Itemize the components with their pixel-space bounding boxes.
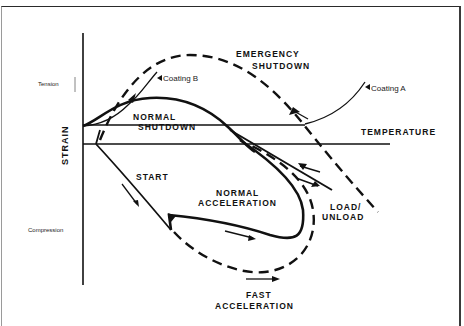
fast-acceleration-curve: [174, 145, 314, 272]
tension-label: Tension: [38, 81, 59, 87]
start-label: START: [136, 172, 169, 182]
load-unload-label-2: UNLOAD: [322, 212, 364, 222]
emergency-label-1: EMERGENCY: [236, 49, 300, 59]
fast-accel-label-2: ACCELERATION: [215, 301, 294, 311]
normal-accel-arrowhead: [248, 235, 256, 241]
temperature-label: TEMPERATURE: [361, 127, 436, 137]
coating-a-pointer-icon: [365, 84, 370, 90]
coating-a-arrow-shaft: [292, 110, 308, 119]
load-arrowhead-up: [298, 163, 307, 170]
coating-a-curve: [305, 82, 365, 124]
coating-b-pointer-icon: [157, 75, 162, 81]
normal-accel-label-2: ACCELERATION: [198, 198, 277, 208]
normal-shutdown-label-2: SHUTDOWN: [138, 122, 196, 132]
normal-accel-label-1: NORMAL: [216, 188, 259, 198]
fast-accel-arrowhead: [272, 276, 280, 282]
compression-label: Compression: [28, 227, 63, 233]
fast-accel-label-1: FAST: [246, 290, 272, 300]
coating-a-label: Coating A: [371, 84, 406, 93]
normal-shutdown-label-1: NORMAL: [133, 112, 176, 122]
start-arrowhead: [133, 200, 139, 207]
load-unload-label-1: LOAD/: [330, 202, 361, 212]
coating-b-label: Coating B: [163, 74, 198, 83]
strain-axis-label: STRAIN: [60, 126, 70, 166]
emergency-label-2: SHUTDOWN: [252, 61, 310, 71]
